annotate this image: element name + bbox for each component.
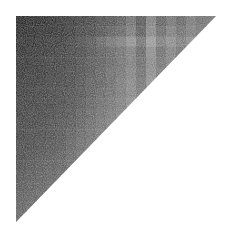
heatmap-cell [96,212,107,223]
heatmap-cell [176,150,187,161]
heatmap-cell [176,191,187,202]
heatmap-cell [116,212,127,223]
heatmap-cell [76,191,87,202]
heatmap-cell [116,181,127,192]
heatmap-cell [206,109,217,120]
heatmap-cell [136,171,147,182]
heatmap-cell [146,181,157,192]
heatmap-cell [196,191,207,202]
heatmap-cell [176,98,187,109]
heatmap-cell [146,109,157,120]
heatmap-cell [136,160,147,171]
heatmap-cell [96,201,107,212]
heatmap-cell [46,201,57,212]
heatmap-cell [186,119,197,130]
heatmap-cell [116,160,127,171]
heatmap-cell [76,171,87,182]
heatmap-cell [56,181,67,192]
heatmap-cell [186,212,197,223]
heatmap-cell [86,171,97,182]
heatmap-cell [196,78,207,89]
heatmap-cell [146,129,157,140]
heatmap-cell [136,181,147,192]
heatmap-cell [206,150,217,161]
heatmap-cell [176,88,187,99]
heatmap-cell [186,88,197,99]
heatmap-cell [196,119,207,130]
heatmap-cell [176,181,187,192]
heatmap-cell [156,160,167,171]
heatmap-cell [56,191,67,202]
heatmap-cell [176,201,187,212]
heatmap-cell [186,191,197,202]
heatmap-cell [176,140,187,151]
heatmap-cell [106,150,117,161]
heatmap-cell [126,150,137,161]
heatmap-cell [146,212,157,223]
heatmap-cell [116,171,127,182]
heatmap-cell [136,150,147,161]
heatmap-cell [136,201,147,212]
heatmap-cell [66,191,77,202]
heatmap-cell [196,47,207,58]
heatmap-cell [166,171,177,182]
heatmap-cell [96,171,107,182]
heatmap-cell [206,57,217,68]
heatmap-cell [116,119,127,130]
heatmap-cell [106,212,117,223]
heatmap-cell [106,140,117,151]
heatmap-cell [186,78,197,89]
heatmap-cell [36,201,47,212]
heatmap-cell [116,129,127,140]
heatmap-cell [116,150,127,161]
heatmap-cell [166,201,177,212]
heatmap-cell [176,119,187,130]
heatmap-cell [156,191,167,202]
heatmap-cell [186,150,197,161]
heatmap-cell [126,201,137,212]
heatmap-cell [36,212,47,223]
heatmap-cell [26,212,37,223]
heatmap-cell [66,212,77,223]
heatmap-cell [106,201,117,212]
heatmap-cell [146,191,157,202]
heatmap-cell [66,171,77,182]
heatmap-cell [196,181,207,192]
heatmap-cell [186,181,197,192]
heatmap-cell [76,212,87,223]
heatmap-cell [126,191,137,202]
heatmap-cell [166,78,177,89]
heatmap-cell [136,109,147,120]
heatmap-cell [176,57,187,68]
heatmap-cell [166,119,177,130]
heatmap-cell [156,181,167,192]
heatmap-cell [186,47,197,58]
heatmap-cell [206,119,217,130]
heatmap-cell [56,212,67,223]
heatmap-cell [126,171,137,182]
heatmap-cell [166,150,177,161]
heatmap-cell [96,160,107,171]
heatmap-cell [196,201,207,212]
heatmap-cell [66,201,77,212]
heatmap-cell [136,191,147,202]
heatmap-cell [176,78,187,89]
heatmap-cell [146,150,157,161]
heatmap-cell [166,68,177,79]
heatmap-cell [196,88,207,99]
heatmap-cell [136,212,147,223]
heatmap-cell [66,181,77,192]
heatmap-cell [196,109,207,120]
heatmap-cell [186,109,197,120]
heatmap-cell [46,212,57,223]
heatmap-cell [56,201,67,212]
heatmap-cell [166,88,177,99]
heatmap-cell [86,160,97,171]
heatmap-cell [176,212,187,223]
heatmap-cell [126,129,137,140]
heatmap-cell [136,129,147,140]
heatmap-cell [196,140,207,151]
heatmap-cell [76,160,87,171]
heatmap-cell [126,160,137,171]
heatmap-cell [116,201,127,212]
